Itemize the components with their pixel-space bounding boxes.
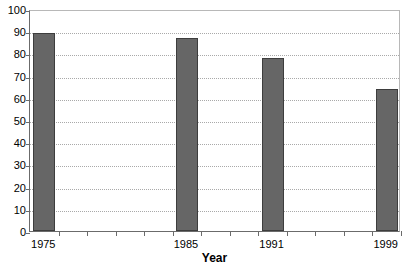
x-axis-tick-label: 1999 bbox=[356, 238, 410, 250]
gridline bbox=[30, 33, 399, 34]
gridline bbox=[30, 100, 399, 101]
y-axis-tick-label: 40 bbox=[0, 138, 26, 149]
x-axis-tick bbox=[287, 231, 288, 236]
x-axis-tick bbox=[372, 231, 373, 236]
x-axis-tick-label: 1991 bbox=[242, 238, 302, 250]
gridline bbox=[30, 144, 399, 145]
gridline bbox=[30, 122, 399, 123]
y-axis-tick-label: 100 bbox=[0, 5, 26, 16]
y-axis-tick bbox=[26, 122, 30, 123]
bar-chart: 0102030405060708090100 1975198519911999 … bbox=[0, 0, 410, 267]
x-axis-tick bbox=[201, 231, 202, 236]
gridline bbox=[30, 189, 399, 190]
y-axis-tick-label: 0 bbox=[0, 227, 26, 238]
x-axis-title: Year bbox=[29, 252, 400, 265]
y-axis-tick-label: 30 bbox=[0, 160, 26, 171]
y-axis-tick-label: 20 bbox=[0, 183, 26, 194]
y-axis-tick bbox=[26, 233, 30, 234]
y-axis-tick bbox=[26, 33, 30, 34]
x-axis-tick bbox=[258, 231, 259, 236]
y-axis-tick bbox=[26, 11, 30, 12]
y-axis-tick bbox=[26, 144, 30, 145]
y-axis-tick-label: 50 bbox=[0, 116, 26, 127]
x-axis-tick bbox=[344, 231, 345, 236]
x-axis-tick bbox=[87, 231, 88, 236]
gridline bbox=[30, 78, 399, 79]
bar bbox=[33, 33, 55, 231]
bar bbox=[376, 89, 398, 231]
y-axis-tick bbox=[26, 211, 30, 212]
y-axis-tick-label: 90 bbox=[0, 27, 26, 38]
y-axis-tick bbox=[26, 166, 30, 167]
y-axis-tick bbox=[26, 55, 30, 56]
y-axis-tick bbox=[26, 189, 30, 190]
gridline bbox=[30, 166, 399, 167]
x-axis-tick bbox=[401, 231, 402, 236]
x-axis-tick-label: 1985 bbox=[156, 238, 216, 250]
plot-area bbox=[29, 10, 400, 232]
x-axis-tick bbox=[59, 231, 60, 236]
gridline bbox=[30, 211, 399, 212]
y-axis-tick bbox=[26, 78, 30, 79]
y-axis-tick bbox=[26, 100, 30, 101]
x-axis-tick bbox=[230, 231, 231, 236]
y-axis-tick-label: 10 bbox=[0, 205, 26, 216]
x-axis-tick bbox=[116, 231, 117, 236]
y-axis-tick-label: 70 bbox=[0, 72, 26, 83]
y-axis-tick-label: 60 bbox=[0, 94, 26, 105]
x-axis-tick bbox=[173, 231, 174, 236]
x-axis-tick bbox=[315, 231, 316, 236]
gridline bbox=[30, 55, 399, 56]
y-axis-tick-label: 80 bbox=[0, 49, 26, 60]
bar bbox=[176, 38, 198, 231]
x-axis-tick-label: 1975 bbox=[13, 238, 73, 250]
x-axis-tick bbox=[144, 231, 145, 236]
bar bbox=[262, 58, 284, 231]
